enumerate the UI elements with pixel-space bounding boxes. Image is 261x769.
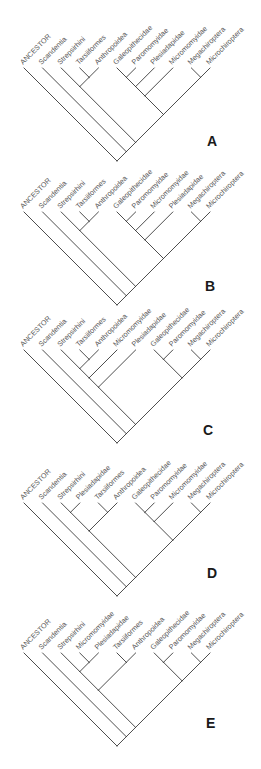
branch-line [24,653,117,746]
branch-line [89,68,98,77]
branch-line [164,77,201,114]
branch-line [126,221,135,230]
branch-line [71,503,80,512]
branch-line [89,531,136,578]
branch-line [145,212,173,240]
branch-line [136,87,145,96]
branch-line [43,212,127,296]
branch-line [145,96,164,115]
branch-line [136,259,164,287]
branch-line [164,653,173,662]
branch-line [126,77,135,86]
branch-line [145,503,154,512]
cladogram-tree: ANCESTORScandentiaStrepsirhiniTarsiiform… [0,145,261,295]
branch-line [61,212,80,231]
branch-line [80,221,89,230]
panel-letter: D [207,565,217,581]
branch-line [89,212,98,221]
branch-line [117,434,126,443]
cladogram-tree: ANCESTORScandentiaStrepsirhiniMicromomyi… [0,595,261,745]
branch-line [164,359,183,378]
branch-line [164,350,173,359]
panel-letter: C [203,422,213,438]
branch-line [154,522,173,541]
cladogram-panel-c: ANCESTORScandentiaStrepsirhiniTarsiiform… [0,292,261,442]
branch-line [61,653,80,672]
branch-line [136,378,183,425]
branch-line [43,653,127,737]
branch-line [98,690,135,727]
branch-line [154,350,163,359]
branch-line [98,387,135,424]
branch-line [126,653,135,662]
cladogram-panel-d: ANCESTORScandentiaStrepsirhiniPlesiadapi… [0,445,261,595]
branch-line [98,662,126,690]
branch-line [80,662,89,671]
branch-line [191,212,200,221]
branch-line [145,68,173,96]
branch-line [136,212,155,231]
branch-line [89,653,98,662]
branch-line [191,350,200,359]
branch-line [80,672,99,691]
branch-line [201,350,210,359]
branch-line [126,212,135,221]
branch-line [191,653,200,662]
branch-line [126,424,135,433]
cladogram-panel-a: ANCESTORScandentiaStrepsirhiniTarsiiform… [0,0,261,150]
branch-line [191,68,200,77]
branch-line [164,221,201,258]
branch-line [126,68,135,77]
branch-line [108,503,117,512]
branch-line [80,68,89,77]
branch-line [126,727,135,736]
branch-line [201,212,210,221]
branch-line [191,503,200,512]
panel-letter: E [206,715,215,731]
branch-line [80,231,136,287]
branch-line [71,512,90,531]
cladogram-tree: ANCESTORScandentiaStrepsirhiniTarsiiform… [0,0,261,150]
branch-line [80,212,89,221]
cladogram-tree: ANCESTORScandentiaStrepsirhiniTarsiiform… [0,292,261,442]
branch-line [201,503,210,512]
branch-line [182,359,201,378]
branch-line [117,737,126,746]
branch-line [145,240,164,259]
branch-line [43,503,127,587]
branch-line [136,503,145,512]
branch-line [136,540,173,577]
branch-line [43,68,127,152]
branch-line [136,681,183,728]
branch-line [117,68,126,77]
branch-line [154,653,163,662]
branch-line [145,512,154,521]
branch-line [154,503,173,522]
branch-line [98,503,107,512]
branch-line [80,87,136,143]
cladogram-panel-b: ANCESTORScandentiaStrepsirhiniTarsiiform… [0,145,261,295]
branch-line [182,662,201,681]
cladogram-tree: ANCESTORScandentiaStrepsirhiniPlesiadapi… [0,445,261,595]
branch-line [201,68,210,77]
branch-line [136,231,145,240]
branch-line [201,653,210,662]
branch-line [61,68,80,87]
branch-line [43,350,127,434]
branch-line [61,503,70,512]
branch-line [89,378,98,387]
branch-line [80,350,89,359]
branch-line [89,350,98,359]
branch-line [80,653,89,662]
branch-line [61,350,80,369]
branch-line [136,68,155,87]
branch-line [80,77,89,86]
branch-line [80,359,89,368]
branch-line [89,512,108,531]
branch-line [98,350,135,387]
branch-line [89,350,117,378]
cladogram-panel-e: ANCESTORScandentiaStrepsirhiniMicromomyi… [0,595,261,745]
branch-line [173,512,201,540]
branch-line [80,369,89,378]
branch-line [126,577,135,586]
